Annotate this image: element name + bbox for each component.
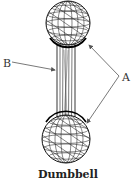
label-a-pointer: A xyxy=(87,45,131,123)
top-sphere xyxy=(46,0,90,52)
label-b-pointer: B xyxy=(3,57,55,70)
dumbbell-diagram: B A Dumbbell xyxy=(0,0,137,182)
label-a: A xyxy=(121,71,131,84)
figure-caption: Dumbbell xyxy=(38,168,98,181)
label-b: B xyxy=(3,57,11,70)
bottom-sphere xyxy=(42,108,90,170)
handle xyxy=(57,44,75,122)
